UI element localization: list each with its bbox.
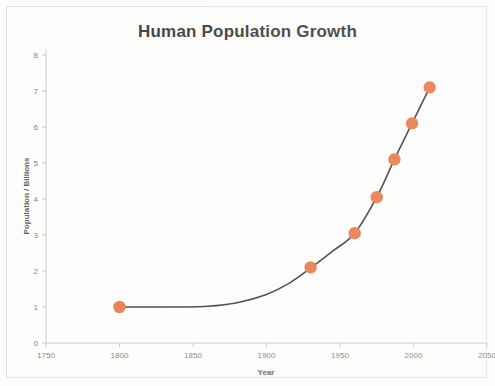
data-point-marker <box>349 227 361 239</box>
data-point-marker <box>423 81 435 93</box>
population-trend-curve <box>120 87 430 307</box>
x-axis-tick-labels: 1750180018501900195020002050 <box>37 351 495 360</box>
x-tick-label: 1850 <box>184 351 202 360</box>
y-axis-ticks <box>42 55 46 343</box>
y-tick-label: 1 <box>34 303 39 312</box>
y-tick-label: 5 <box>34 159 39 168</box>
y-axis-tick-labels: 012345678 <box>34 51 39 348</box>
data-point-marker <box>388 153 400 165</box>
y-tick-label: 2 <box>34 267 39 276</box>
x-tick-label: 1950 <box>331 351 349 360</box>
data-point-markers <box>113 81 436 313</box>
y-tick-label: 6 <box>34 123 39 132</box>
x-tick-label: 1750 <box>37 351 55 360</box>
axis-lines <box>46 50 487 343</box>
x-tick-label: 1900 <box>258 351 276 360</box>
x-tick-label: 1800 <box>111 351 129 360</box>
population-growth-chart: Human Population Growth 012345678 175018… <box>0 0 495 386</box>
y-tick-label: 0 <box>34 339 39 348</box>
y-axis-title: Population / Billions <box>22 157 31 234</box>
y-tick-label: 7 <box>34 87 39 96</box>
x-tick-label: 2050 <box>478 351 495 360</box>
data-point-marker <box>406 117 418 129</box>
data-point-marker <box>304 261 316 273</box>
data-point-marker <box>113 301 125 313</box>
y-tick-label: 8 <box>34 51 39 60</box>
chart-plot-area: 012345678 1750180018501900195020002050 Y… <box>0 0 495 386</box>
y-tick-label: 4 <box>34 195 39 204</box>
y-tick-label: 3 <box>34 231 39 240</box>
x-axis-ticks <box>46 343 487 347</box>
chart-screenshot: Human Population Growth 012345678 175018… <box>0 0 495 386</box>
x-tick-label: 2000 <box>405 351 423 360</box>
x-axis-title: Year <box>258 368 275 377</box>
data-point-marker <box>371 191 383 203</box>
